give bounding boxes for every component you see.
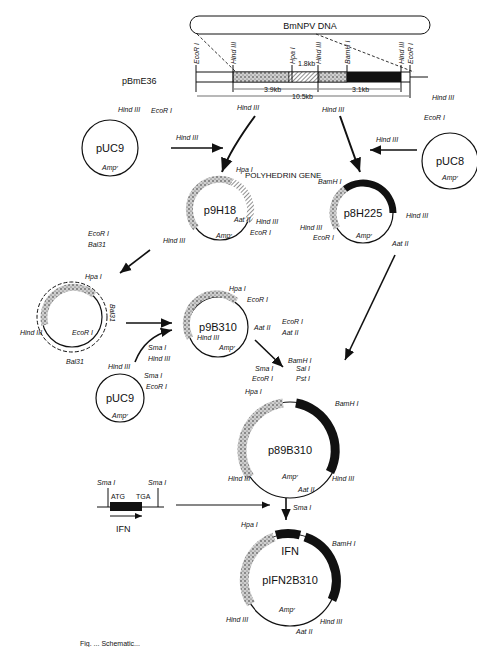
svg-text:Ampʳ: Ampʳ bbox=[111, 412, 128, 420]
plasmid-bal31-deletion: Hpa I Hind III EcoR I Bal31 Bal31 bbox=[20, 273, 116, 365]
svg-text:Hind III: Hind III bbox=[176, 134, 198, 141]
svg-text:BamH I: BamH I bbox=[318, 178, 341, 185]
svg-text:3.1kb: 3.1kb bbox=[352, 86, 369, 93]
svg-text:Hind III: Hind III bbox=[256, 218, 278, 225]
svg-text:p89B310: p89B310 bbox=[268, 444, 312, 456]
ifn-gene-fragment: Sma I Sma I ATG TGA IFN bbox=[97, 479, 166, 534]
svg-text:Aat II: Aat II bbox=[295, 628, 312, 635]
svg-text:pUC9: pUC9 bbox=[96, 142, 124, 154]
svg-text:Ampʳ: Ampʳ bbox=[218, 344, 235, 352]
plasmid-p9h18: p9H18 Ampʳ POLYHEDRIN GENE Hpa I Hind II… bbox=[163, 166, 321, 244]
svg-text:EcoR I: EcoR I bbox=[407, 43, 414, 64]
svg-text:Bal31: Bal31 bbox=[66, 358, 84, 365]
svg-text:Hind III: Hind III bbox=[118, 106, 140, 113]
svg-text:Aat II: Aat II bbox=[391, 240, 408, 247]
svg-text:Hind III: Hind III bbox=[315, 42, 322, 64]
svg-text:pUC9: pUC9 bbox=[106, 392, 134, 404]
svg-text:10.5kb: 10.5kb bbox=[292, 93, 313, 100]
svg-text:Hind III: Hind III bbox=[237, 104, 259, 111]
svg-text:Hind III: Hind III bbox=[432, 94, 454, 101]
svg-text:pUC8: pUC8 bbox=[436, 155, 464, 167]
svg-text:BamH I: BamH I bbox=[332, 540, 355, 547]
svg-text:Sal I: Sal I bbox=[296, 365, 310, 372]
svg-text:Ampʳ: Ampʳ bbox=[281, 473, 298, 481]
plasmid-p9b310: p9B310 Ampʳ Hpa I EcoR I Aat II Hind III bbox=[186, 285, 270, 357]
plasmid-p8h225: p8H225 Ampʳ BamH I Hind III Hind III Eco… bbox=[300, 178, 428, 247]
svg-text:Aat II: Aat II bbox=[281, 329, 298, 336]
plasmid-construction-diagram: BmNPV DNA pBmE36 EcoR I Hind III Hpa I H… bbox=[0, 0, 477, 647]
svg-text:3.9kb: 3.9kb bbox=[264, 86, 281, 93]
bmnpv-genome-map: BmNPV DNA pBmE36 EcoR I Hind III Hpa I H… bbox=[122, 16, 430, 100]
svg-text:Hind III: Hind III bbox=[228, 475, 250, 482]
svg-text:Hind III: Hind III bbox=[108, 363, 130, 370]
svg-text:Sma I: Sma I bbox=[148, 344, 166, 351]
svg-text:Hind III: Hind III bbox=[163, 237, 185, 244]
svg-text:Sma I: Sma I bbox=[144, 372, 162, 379]
svg-text:Sma I: Sma I bbox=[148, 479, 166, 486]
svg-text:Hpa I: Hpa I bbox=[241, 521, 258, 529]
svg-text:Hpa I: Hpa I bbox=[289, 47, 297, 64]
svg-text:EcoR I: EcoR I bbox=[151, 107, 172, 114]
svg-text:EcoR I: EcoR I bbox=[282, 318, 303, 325]
plasmid-puc9-b: pUC9 Ampʳ Hind III Sma I EcoR I bbox=[96, 363, 167, 422]
svg-text:Ampʳ: Ampʳ bbox=[441, 174, 458, 182]
svg-text:Hind III: Hind III bbox=[320, 618, 342, 625]
svg-text:Aat II: Aat II bbox=[233, 216, 250, 223]
svg-text:Ampʳ: Ampʳ bbox=[101, 164, 118, 172]
svg-text:Hind III: Hind III bbox=[20, 329, 42, 336]
svg-text:Hpa I: Hpa I bbox=[85, 273, 102, 281]
svg-text:Sma I: Sma I bbox=[97, 479, 115, 486]
svg-text:EcoR I: EcoR I bbox=[250, 229, 271, 236]
svg-text:Ampʳ: Ampʳ bbox=[215, 232, 232, 240]
svg-text:Aat II: Aat II bbox=[297, 486, 314, 493]
svg-text:Sma I: Sma I bbox=[293, 504, 311, 511]
caption: Fig. ... Schematic... bbox=[80, 640, 140, 647]
svg-text:Pst I: Pst I bbox=[296, 375, 310, 382]
svg-text:p8H225: p8H225 bbox=[344, 207, 383, 219]
svg-text:Hpa I: Hpa I bbox=[229, 285, 246, 293]
svg-text:EcoR I: EcoR I bbox=[424, 114, 445, 121]
plasmid-p89b310: p89B310 Ampʳ Sma I BamH I Sal I EcoR I P… bbox=[228, 357, 358, 498]
svg-text:Bal31: Bal31 bbox=[109, 304, 116, 322]
plasmid-pifn2b310: IFN pIFN2B310 Ampʳ Hpa I BamH I Hind III… bbox=[226, 521, 355, 635]
svg-text:pIFN2B310: pIFN2B310 bbox=[262, 574, 318, 586]
svg-text:BamH I: BamH I bbox=[288, 357, 311, 364]
clone-label: pBmE36 bbox=[122, 76, 157, 86]
svg-text:EcoR I: EcoR I bbox=[193, 43, 200, 64]
plasmid-puc8: pUC8 Ampʳ EcoR I bbox=[422, 114, 477, 189]
svg-text:Hind III: Hind III bbox=[376, 136, 398, 143]
svg-text:EcoR I: EcoR I bbox=[72, 329, 93, 336]
svg-text:1.8kb: 1.8kb bbox=[298, 60, 315, 67]
svg-text:EcoR I: EcoR I bbox=[247, 296, 268, 303]
svg-text:Hind III: Hind III bbox=[398, 42, 405, 64]
svg-text:IFN: IFN bbox=[281, 545, 299, 557]
svg-text:p9B310: p9B310 bbox=[199, 321, 237, 333]
svg-text:Hind III: Hind III bbox=[148, 355, 170, 362]
svg-text:Aat II: Aat II bbox=[253, 324, 270, 331]
svg-text:IFN: IFN bbox=[116, 524, 131, 534]
svg-text:EcoR I: EcoR I bbox=[313, 234, 334, 241]
svg-text:Bal31: Bal31 bbox=[88, 241, 106, 248]
svg-text:Hind III: Hind III bbox=[332, 475, 354, 482]
svg-text:Hind III: Hind III bbox=[300, 224, 322, 231]
genome-title: BmNPV DNA bbox=[283, 21, 337, 31]
svg-text:Hind III: Hind III bbox=[197, 334, 219, 341]
svg-text:TGA: TGA bbox=[136, 493, 151, 500]
svg-text:POLYHEDRIN GENE: POLYHEDRIN GENE bbox=[245, 171, 321, 180]
svg-text:BamH I: BamH I bbox=[335, 400, 358, 407]
svg-text:Hind III: Hind III bbox=[406, 212, 428, 219]
svg-text:Hind III: Hind III bbox=[230, 42, 237, 64]
svg-text:EcoR I: EcoR I bbox=[146, 383, 167, 390]
plasmid-puc9-a: pUC9 Ampʳ Hind III EcoR I bbox=[82, 106, 172, 176]
svg-text:Ampʳ: Ampʳ bbox=[278, 606, 295, 614]
svg-text:BamH I: BamH I bbox=[344, 41, 351, 64]
svg-text:Ampʳ: Ampʳ bbox=[355, 232, 372, 240]
svg-text:Hpa I: Hpa I bbox=[236, 166, 253, 174]
svg-text:Sma I: Sma I bbox=[255, 365, 273, 372]
svg-text:EcoR I: EcoR I bbox=[88, 230, 109, 237]
svg-text:Hpa I: Hpa I bbox=[245, 388, 262, 396]
svg-text:Hind III: Hind III bbox=[322, 106, 344, 113]
svg-text:Hind III: Hind III bbox=[226, 616, 248, 623]
svg-text:EcoR I: EcoR I bbox=[252, 375, 273, 382]
svg-text:p9H18: p9H18 bbox=[204, 204, 236, 216]
